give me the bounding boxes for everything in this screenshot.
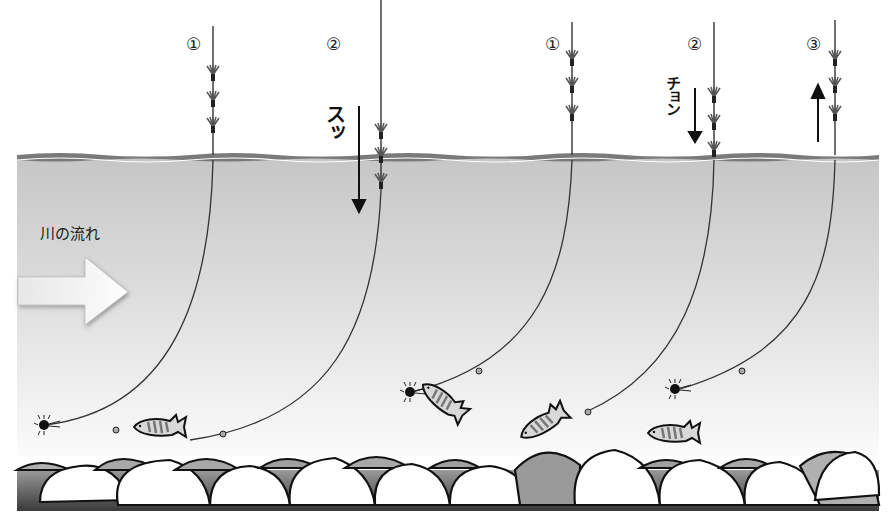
step-marker-2b: ② bbox=[687, 36, 702, 53]
riverbed bbox=[17, 450, 879, 511]
up-arrow-icon bbox=[812, 85, 824, 142]
step-marker-3: ③ bbox=[806, 36, 821, 53]
flow-label: 川の流れ bbox=[40, 222, 100, 243]
sound-effect-su: スッ bbox=[320, 104, 349, 140]
sound-effect-chon: チョン bbox=[662, 76, 683, 115]
down-arrow-icon bbox=[689, 88, 701, 142]
step-marker-1b: ① bbox=[545, 36, 560, 53]
step-marker-1: ① bbox=[186, 36, 201, 53]
step-marker-2: ② bbox=[326, 36, 341, 53]
fishing-diagram bbox=[0, 0, 896, 526]
